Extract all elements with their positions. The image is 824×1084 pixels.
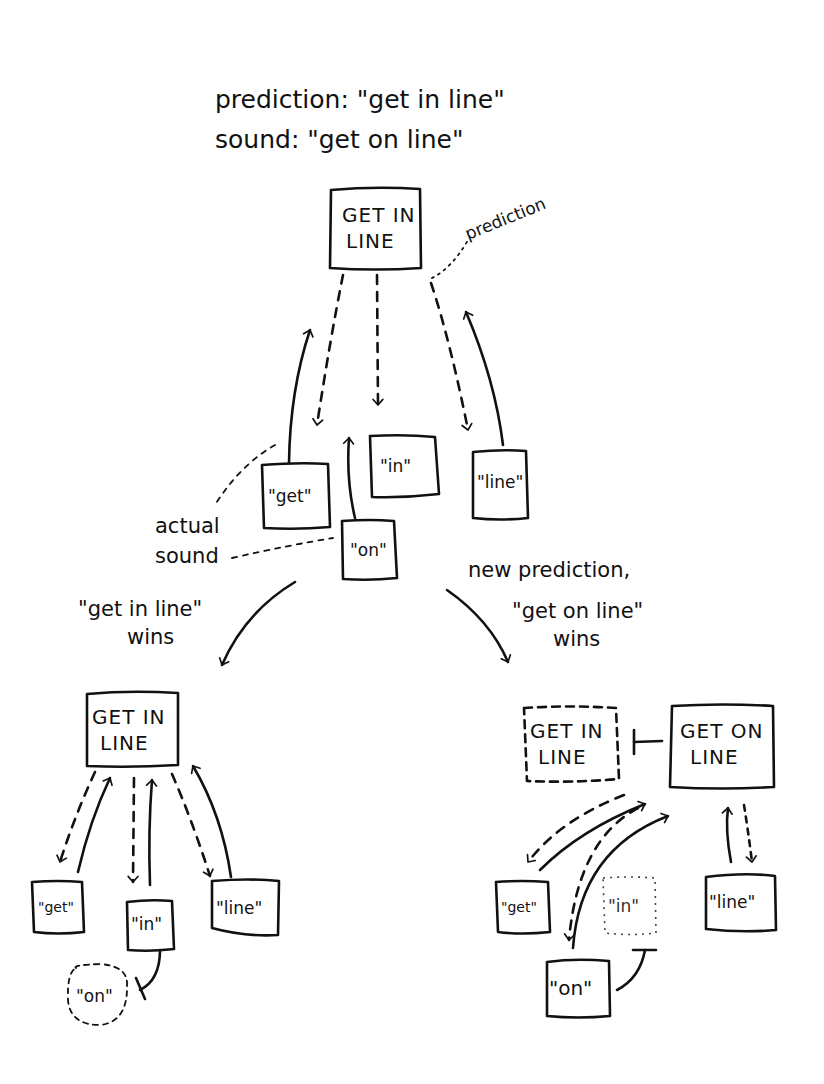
right-predict-arrow-line [744, 805, 752, 862]
header-sound-text: sound: "get on line" [215, 125, 463, 154]
left-caption-line1: "get in line" [78, 597, 202, 621]
right-caption-line1: "get on line" [512, 599, 643, 623]
right-inhibited-phrase-box: GET IN LINE [524, 707, 619, 782]
right-caption-line0: new prediction, [468, 558, 630, 582]
top-sound-box-on: "on" [342, 520, 397, 580]
top-word-in-label: "in" [380, 456, 411, 476]
right-confirm-arrow-on [573, 816, 668, 948]
top-word-line-label: "line" [477, 472, 523, 492]
top-word-box-get: "get" [262, 463, 330, 529]
top-word-get-label: "get" [268, 486, 312, 506]
left-inhibited-on-label: "on" [76, 986, 113, 1006]
right-inhibited-in-label: "in" [608, 896, 639, 916]
left-confirm-arrow-get [78, 778, 110, 872]
right-word-get-label: "get" [501, 899, 537, 915]
header-prediction-text: prediction: "get in line" [215, 85, 505, 114]
prediction-diagram: prediction: "get in line" sound: "get on… [0, 0, 824, 1084]
top-phrase-box: GET IN LINE [330, 188, 421, 270]
right-predict-arrow-on [569, 808, 638, 940]
actual-sound-leader-get [215, 445, 275, 505]
left-confirm-arrow-line [193, 766, 231, 877]
left-phrase-line2: LINE [100, 731, 149, 755]
confirm-arrow-line [466, 312, 503, 445]
left-predict-arrow-in [133, 778, 134, 882]
right-caption-line2: wins [553, 627, 600, 651]
right-word-line-label: "line" [709, 892, 755, 912]
top-word-box-in: "in" [370, 435, 439, 497]
branch-arrow-right [447, 590, 508, 662]
left-word-box-in: "in" [127, 900, 174, 951]
left-phrase-box: GET IN LINE [87, 692, 178, 767]
left-inhibit-link [140, 950, 160, 990]
right-word-box-line: "line" [706, 874, 776, 931]
actual-note-line2: sound [155, 544, 219, 568]
left-predict-arrow-get [60, 772, 95, 862]
top-phrase-line1: GET IN [342, 203, 416, 227]
left-word-box-get: "get" [32, 881, 84, 934]
top-phrase-line2: LINE [346, 229, 395, 253]
branch-arrow-left [222, 582, 295, 665]
predict-arrow-line [431, 283, 468, 430]
right-confirm-arrow-line [727, 808, 731, 862]
left-caption-line2: wins [127, 625, 174, 649]
right-phrase-box: GET ON LINE [670, 705, 774, 789]
prediction-leader-line [432, 240, 468, 278]
top-sound-on-label: "on" [350, 540, 387, 560]
right-phrase-line1: GET ON [680, 719, 763, 743]
left-word-line-label: "line" [216, 898, 262, 918]
actual-note-line1: actual [155, 514, 220, 538]
confirm-arrow-get [289, 330, 310, 463]
right-inhibit-link [617, 950, 645, 990]
left-word-get-label: "get" [38, 899, 74, 915]
predict-arrow-in [377, 275, 378, 405]
top-word-box-line: "line" [473, 450, 528, 519]
right-phrase-inhibit-link [634, 741, 662, 742]
actual-sound-leader-on [232, 538, 333, 558]
left-confirm-arrow-in [149, 780, 152, 885]
right-inhibited-word-box-in: "in" [603, 877, 656, 935]
right-word-box-get: "get" [496, 881, 550, 934]
left-inhibited-box-on: "on" [68, 964, 127, 1025]
left-word-box-line: "line" [212, 880, 279, 936]
right-sound-on-label: "on" [549, 976, 592, 1000]
right-inhibited-phrase-line1: GET IN [530, 719, 604, 743]
right-phrase-line2: LINE [690, 745, 739, 769]
left-word-in-label: "in" [131, 914, 162, 934]
left-phrase-line1: GET IN [92, 705, 166, 729]
right-inhibited-phrase-line2: LINE [538, 745, 587, 769]
sound-arrow-on [348, 438, 355, 518]
predict-arrow-get [317, 275, 343, 425]
prediction-note: prediction [462, 193, 549, 243]
right-sound-box-on: "on" [547, 960, 610, 1018]
